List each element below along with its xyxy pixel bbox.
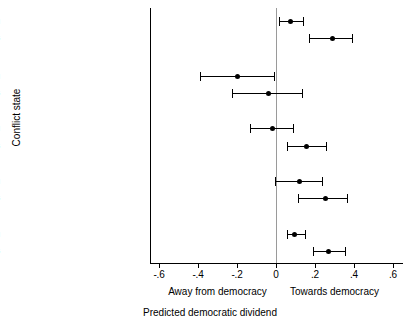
x-axis-tick-label: -.2: [217, 269, 257, 280]
x-axis-tick: [354, 264, 355, 268]
estimate-point: [270, 126, 275, 131]
zero-reference-line: [276, 8, 277, 263]
x-axis-tick: [237, 264, 238, 268]
x-axis-tick-label: .4: [334, 269, 374, 280]
towards-democracy-label: Towards democracy: [265, 286, 405, 297]
x-axis-tick-label: .6: [373, 269, 413, 280]
x-axis-tick-label: .2: [295, 269, 335, 280]
confidence-interval-cap: [326, 142, 327, 151]
x-axis-tick-label: -.4: [178, 269, 218, 280]
confidence-interval-cap: [313, 247, 314, 256]
estimate-point: [304, 144, 309, 149]
x-axis-tick-label: 0: [256, 269, 296, 280]
confidence-interval-cap: [232, 89, 233, 98]
confidence-interval-cap: [287, 142, 288, 151]
confidence-interval-cap: [347, 194, 348, 203]
estimate-point: [292, 232, 297, 237]
confidence-interval-cap: [302, 89, 303, 98]
confidence-interval-cap: [293, 124, 294, 133]
confidence-interval-cap: [345, 247, 346, 256]
confidence-interval-cap: [322, 177, 323, 186]
chart-figure: -.6-.4-.20.2.4.6 Peaceavg1990sConflictav…: [0, 0, 420, 329]
confidence-interval-cap: [303, 17, 304, 26]
x-axis-tick: [198, 264, 199, 268]
y-axis-title: Conflict state: [11, 58, 22, 178]
estimate-point: [288, 19, 293, 24]
estimate-point: [326, 249, 331, 254]
x-axis-tick: [276, 264, 277, 268]
x-axis-tick-label: -.6: [139, 269, 179, 280]
confidence-interval-cap: [298, 194, 299, 203]
confidence-interval-cap: [250, 124, 251, 133]
confidence-interval-cap: [274, 72, 275, 81]
estimate-point: [297, 179, 302, 184]
estimate-point: [323, 196, 328, 201]
estimate-point: [266, 91, 271, 96]
estimate-point: [235, 74, 240, 79]
confidence-interval-cap: [309, 34, 310, 43]
confidence-interval-cap: [279, 17, 280, 26]
confidence-interval-cap: [352, 34, 353, 43]
x-axis-tick: [159, 264, 160, 268]
x-axis-tick: [393, 264, 394, 268]
confidence-interval-cap: [275, 177, 276, 186]
x-axis-tick: [315, 264, 316, 268]
confidence-interval-cap: [287, 230, 288, 239]
x-axis-title: Predicted democratic dividend: [0, 307, 420, 318]
y-axis-spine: [150, 8, 151, 263]
confidence-interval-cap: [200, 72, 201, 81]
estimate-point: [330, 36, 335, 41]
confidence-interval-cap: [305, 230, 306, 239]
